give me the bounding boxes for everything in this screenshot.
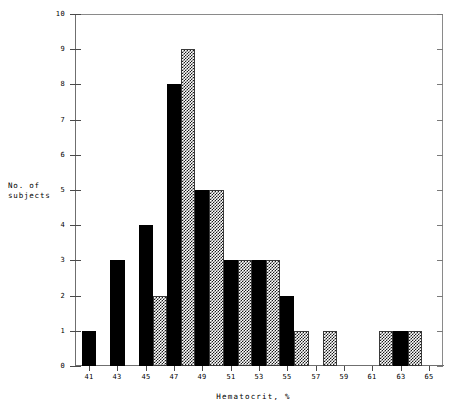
- histogram-bar: [82, 331, 96, 366]
- bars-container: [76, 15, 443, 366]
- histogram-bar: [379, 331, 393, 366]
- histogram-bar: [408, 331, 422, 366]
- histogram-bar: [252, 260, 266, 366]
- x-tick-label: 53: [247, 373, 271, 381]
- x-tick-label: 41: [77, 373, 101, 381]
- y-tick-right: [437, 366, 443, 367]
- x-tick: [401, 366, 402, 371]
- y-tick-label: 10: [35, 11, 65, 18]
- histogram-bar: [323, 331, 337, 366]
- y-tick-label: 2: [35, 293, 65, 300]
- x-tick-label: 45: [134, 373, 158, 381]
- x-tick-label: 55: [275, 373, 299, 381]
- y-tick-label: 1: [35, 328, 65, 335]
- x-tick-label: 49: [190, 373, 214, 381]
- x-tick: [287, 366, 288, 371]
- histogram-bar: [209, 190, 223, 366]
- x-axis-title: Hematocrit, %: [0, 392, 471, 401]
- y-tick-label: 8: [35, 81, 65, 88]
- x-tick: [259, 366, 260, 371]
- x-tick-label: 59: [332, 373, 356, 381]
- x-tick: [316, 366, 317, 371]
- histogram-chart: 012345678910 41434547495153555759616365 …: [0, 0, 471, 412]
- x-tick: [429, 366, 430, 371]
- x-tick-label: 63: [389, 373, 413, 381]
- histogram-bar: [139, 225, 153, 366]
- y-tick-label: 3: [35, 257, 65, 264]
- y-tick-label: 6: [35, 152, 65, 159]
- x-tick: [344, 366, 345, 371]
- histogram-bar: [266, 260, 280, 366]
- x-tick-label: 43: [105, 373, 129, 381]
- x-tick-label: 65: [417, 373, 441, 381]
- histogram-bar: [167, 84, 181, 366]
- histogram-bar: [110, 260, 124, 366]
- histogram-bar: [294, 331, 308, 366]
- x-tick-label: 61: [360, 373, 384, 381]
- y-tick-label: 0: [35, 363, 65, 370]
- histogram-bar: [153, 296, 167, 366]
- x-tick-label: 47: [162, 373, 186, 381]
- histogram-bar: [280, 296, 294, 366]
- histogram-bar: [238, 260, 252, 366]
- x-tick-label: 51: [219, 373, 243, 381]
- histogram-bar: [181, 49, 195, 366]
- x-tick: [231, 366, 232, 371]
- x-tick: [117, 366, 118, 371]
- x-tick: [174, 366, 175, 371]
- histogram-bar: [195, 190, 209, 366]
- y-axis-title: No. of subjects: [8, 181, 72, 201]
- histogram-bar: [393, 331, 407, 366]
- x-tick: [202, 366, 203, 371]
- x-tick: [146, 366, 147, 371]
- y-tick-label: 9: [35, 46, 65, 53]
- y-tick-inner: [76, 366, 81, 367]
- x-tick: [372, 366, 373, 371]
- y-tick-label: 7: [35, 117, 65, 124]
- x-tick-label: 57: [304, 373, 328, 381]
- x-tick: [89, 366, 90, 371]
- histogram-bar: [224, 260, 238, 366]
- y-tick-label: 4: [35, 222, 65, 229]
